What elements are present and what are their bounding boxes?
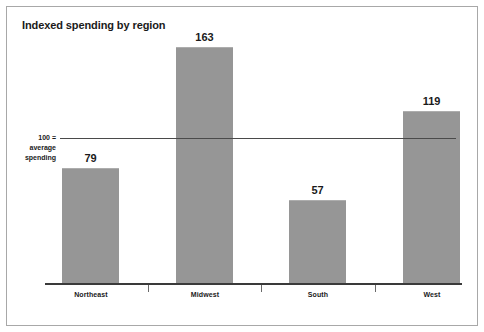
bar-northeast[interactable]	[62, 168, 119, 283]
bar-value-west: 119	[403, 95, 460, 107]
bar-value-midwest: 163	[176, 31, 233, 43]
average-reference-line	[60, 138, 456, 139]
bar-value-northeast: 79	[62, 152, 119, 164]
reference-label-line-1: 100 =	[0, 133, 56, 143]
x-axis-label-south: South	[282, 291, 354, 298]
reference-label-line-2: average	[0, 143, 56, 153]
x-axis-line	[45, 283, 462, 285]
bar-value-south: 57	[289, 184, 346, 196]
x-axis-label-northeast: Northeast	[55, 291, 127, 298]
chart-figure: Indexed spending by region 79 163 57 119…	[0, 0, 484, 332]
x-axis-label-midwest: Midwest	[169, 291, 241, 298]
x-axis-tick	[261, 285, 262, 292]
x-axis-tick	[148, 285, 149, 292]
x-axis-label-west: West	[396, 291, 468, 298]
reference-label-line-3: spending	[0, 153, 56, 163]
bar-west[interactable]	[403, 111, 460, 283]
average-reference-label: 100 = average spending	[0, 133, 56, 163]
bar-midwest[interactable]	[176, 47, 233, 283]
x-axis-tick	[375, 285, 376, 292]
plot-area: 79 163 57 119 100 = average spending Nor…	[0, 0, 484, 332]
bar-south[interactable]	[289, 200, 346, 283]
